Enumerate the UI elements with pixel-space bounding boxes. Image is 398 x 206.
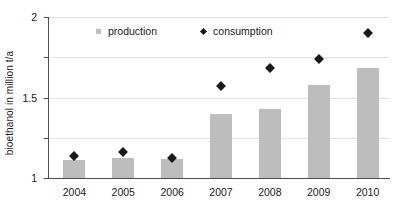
bar-2007 bbox=[210, 114, 232, 178]
marker-2005 bbox=[118, 147, 128, 157]
bioethanol-production-consumption-chart: bioethanol in million t/a production con… bbox=[0, 0, 398, 206]
marker-2008 bbox=[265, 63, 275, 73]
y-axis-tick-mark: 0 bbox=[44, 178, 48, 179]
x-axis-tick-label-2005: 2005 bbox=[112, 186, 135, 198]
bar-2009 bbox=[308, 85, 330, 178]
gridline bbox=[49, 98, 390, 99]
y-axis-tick-mark: 0.5 bbox=[44, 138, 48, 139]
bar-2005 bbox=[112, 158, 134, 178]
bar-2010 bbox=[357, 68, 379, 178]
x-axis-tick-label-2010: 2010 bbox=[356, 186, 379, 198]
marker-2009 bbox=[314, 54, 324, 64]
x-axis-line bbox=[48, 178, 390, 179]
y-axis-tick-mark: 2 bbox=[44, 17, 48, 18]
bar-2008 bbox=[259, 109, 281, 178]
marker-2007 bbox=[216, 81, 226, 91]
bar-2004 bbox=[63, 160, 85, 178]
marker-2010 bbox=[363, 28, 373, 38]
y-axis-tick-mark: 1 bbox=[44, 98, 48, 99]
y-axis-tick-label: 1.5 bbox=[22, 92, 37, 104]
y-axis-tick-label: 1 bbox=[31, 172, 37, 184]
x-axis-tick-label-2004: 2004 bbox=[63, 186, 86, 198]
x-axis-tick-label-2008: 2008 bbox=[258, 186, 281, 198]
y-axis-tick-label: 2 bbox=[31, 11, 37, 23]
gridline bbox=[49, 17, 390, 18]
gridline bbox=[49, 57, 390, 58]
x-axis-tick-label-2006: 2006 bbox=[160, 186, 183, 198]
x-axis-tick-label-2007: 2007 bbox=[209, 186, 232, 198]
plot-area: 00.511.52 2004200520062007200820092010 bbox=[48, 17, 390, 179]
y-axis-title: bioethanol in million t/a bbox=[0, 0, 18, 206]
y-axis-tick-mark: 1.5 bbox=[44, 57, 48, 58]
x-axis-tick-label-2009: 2009 bbox=[307, 186, 330, 198]
